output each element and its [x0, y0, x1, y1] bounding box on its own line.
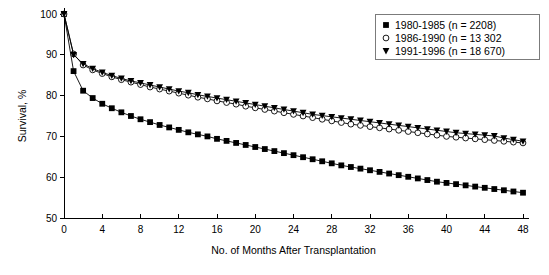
x-tick-label-32: 32: [364, 224, 376, 235]
marker-filled-square: [262, 146, 268, 152]
chart-canvas: 506070809010004812162024283236404448 198…: [0, 0, 549, 275]
marker-filled-square: [205, 134, 211, 140]
marker-filled-square: [511, 189, 517, 195]
marker-filled-square: [71, 68, 77, 74]
marker-filled-square: [118, 109, 124, 115]
marker-filled-square: [463, 182, 469, 188]
legend-entry-2: 1991-1996 (n = 18 670): [383, 45, 505, 57]
marker-filled-square: [491, 186, 497, 192]
marker-filled-square: [444, 180, 450, 186]
marker-filled-square: [90, 95, 96, 101]
x-tick-label-44: 44: [479, 224, 491, 235]
marker-filled-square: [472, 184, 478, 190]
legend-label-0: 1980-1985 (n = 2208): [395, 19, 496, 31]
legend-entry-0: 1980-1985 (n = 2208): [383, 19, 496, 31]
x-tick-label-0: 0: [61, 224, 67, 235]
marker-filled-square: [252, 144, 258, 150]
marker-filled-square: [319, 158, 325, 164]
marker-filled-square: [109, 105, 115, 111]
marker-filled-square: [271, 148, 277, 154]
x-tick-label-28: 28: [326, 224, 338, 235]
y-tick-label-90: 90: [46, 49, 58, 60]
marker-filled-square: [338, 162, 344, 168]
y-tick-label-70: 70: [46, 131, 58, 142]
legend-label-1: 1986-1990 (n = 13 302: [395, 32, 502, 44]
marker-filled-square: [147, 119, 153, 125]
x-tick-label-12: 12: [173, 224, 185, 235]
x-tick-label-36: 36: [403, 224, 415, 235]
x-tick-label-20: 20: [250, 224, 262, 235]
x-tick-label-48: 48: [517, 224, 529, 235]
marker-filled-square: [405, 174, 411, 180]
marker-filled-square: [377, 169, 383, 175]
marker-filled-square: [138, 116, 144, 122]
marker-filled-square: [214, 136, 220, 142]
y-tick-label-80: 80: [46, 90, 58, 101]
marker-filled-square: [281, 150, 287, 156]
legend-marker-filled-square: [383, 22, 389, 28]
survival-chart-figure: 506070809010004812162024283236404448 198…: [0, 0, 549, 275]
marker-filled-square: [185, 129, 191, 135]
marker-filled-square: [415, 176, 421, 182]
marker-filled-square: [224, 138, 230, 144]
marker-filled-square: [128, 113, 134, 119]
marker-filled-square: [434, 179, 440, 185]
marker-filled-square: [453, 181, 459, 187]
chart-legend: 1980-1985 (n = 2208)1986-1990 (n = 13 30…: [375, 14, 539, 59]
marker-filled-square: [358, 166, 364, 172]
marker-filled-square: [176, 127, 182, 133]
y-axis-title: Survival, %: [16, 90, 28, 143]
x-axis-title: No. of Months After Transplantation: [211, 244, 376, 256]
marker-filled-square: [348, 164, 354, 170]
marker-filled-square: [520, 190, 526, 196]
marker-filled-square: [195, 131, 201, 137]
x-tick-label-4: 4: [99, 224, 105, 235]
y-tick-label-60: 60: [46, 172, 58, 183]
marker-filled-square: [396, 172, 402, 178]
marker-filled-square: [310, 156, 316, 162]
marker-filled-square: [291, 152, 297, 158]
legend-entry-1: 1986-1990 (n = 13 302: [383, 32, 502, 44]
x-tick-label-24: 24: [288, 224, 300, 235]
x-tick-label-40: 40: [441, 224, 453, 235]
marker-filled-square: [157, 122, 163, 128]
legend-marker-open-circle: [383, 35, 389, 41]
marker-filled-square: [424, 177, 430, 183]
y-tick-label-50: 50: [46, 213, 58, 224]
x-tick-label-16: 16: [211, 224, 223, 235]
marker-filled-square: [243, 142, 249, 148]
marker-filled-square: [482, 185, 488, 191]
marker-filled-square: [99, 101, 105, 107]
marker-filled-square: [501, 187, 507, 193]
marker-filled-square: [367, 167, 373, 173]
marker-filled-square: [80, 88, 86, 94]
legend-label-2: 1991-1996 (n = 18 670): [395, 45, 505, 57]
x-tick-label-8: 8: [138, 224, 144, 235]
y-tick-label-100: 100: [40, 9, 57, 20]
marker-filled-square: [386, 171, 392, 177]
marker-filled-square: [329, 160, 335, 166]
marker-filled-square: [233, 140, 239, 146]
marker-filled-square: [166, 125, 172, 131]
marker-filled-square: [300, 154, 306, 160]
